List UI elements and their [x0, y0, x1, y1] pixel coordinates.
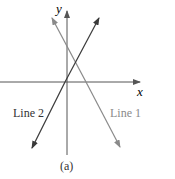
diagram-canvas: [0, 0, 175, 179]
line-2-label: Line 2: [13, 107, 44, 119]
figure-caption: (a): [60, 160, 73, 172]
x-axis-label: x: [137, 86, 143, 98]
line-1: [52, 18, 86, 82]
y-axis-label: y: [56, 3, 62, 15]
coordinate-diagram: y x Line 2 Line 1 (a): [0, 0, 175, 179]
line-1-label: Line 1: [110, 107, 141, 119]
line-2: [65, 18, 99, 82]
